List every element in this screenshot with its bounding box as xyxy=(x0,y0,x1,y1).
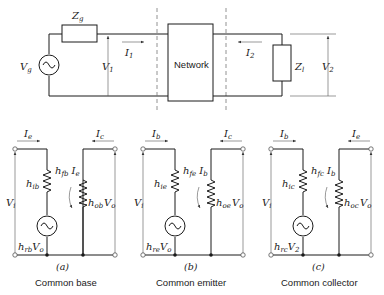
svg-text:Ie: Ie xyxy=(351,128,360,141)
svg-text:hic: hic xyxy=(282,178,295,191)
subcircuit-common-collector: Ib Ie Vi Vo hic hfcIb hoc hrcV2 (c) Comm… xyxy=(262,128,373,288)
caption: Common base xyxy=(35,277,97,288)
input-terminal-bottom xyxy=(269,253,273,257)
subcircuit-common-emitter: Ib Ic Vi Vo hie hfeIb hoe hreVo (b) Comm… xyxy=(134,128,245,288)
load-impedance-box xyxy=(273,45,291,81)
junction-dot xyxy=(209,253,213,257)
svg-text:hib: hib xyxy=(26,178,40,191)
svg-text:Vi: Vi xyxy=(6,197,15,210)
output-current-label: I2 xyxy=(245,47,255,60)
svg-text:Ib: Ib xyxy=(279,128,289,141)
input-terminal-top xyxy=(141,147,145,151)
input-terminal-top xyxy=(269,147,273,151)
output-terminal-bottom xyxy=(241,253,245,257)
output-resistor-icon xyxy=(207,180,215,207)
input-resistor-icon xyxy=(299,170,307,192)
dependent-current-arrow-icon xyxy=(325,187,328,208)
svg-text:hfbIe: hfbIe xyxy=(55,165,80,178)
output-terminal-top xyxy=(369,147,373,151)
svg-text:hoe: hoe xyxy=(216,197,231,210)
svg-text:Vi: Vi xyxy=(262,197,271,210)
dependent-current-arrow-icon xyxy=(197,187,200,208)
ac-source-icon xyxy=(37,216,57,236)
dependent-current-arrow-icon xyxy=(69,187,72,208)
svg-text:hie: hie xyxy=(154,178,167,191)
svg-text:Vo: Vo xyxy=(360,197,371,210)
svg-text:Vo: Vo xyxy=(104,197,115,210)
source-voltage-label: Vg xyxy=(20,61,32,74)
generator-impedance-label: Zg xyxy=(71,10,84,23)
input-terminal-bottom xyxy=(141,253,145,257)
svg-text:Vi: Vi xyxy=(134,197,143,210)
generator-impedance-box xyxy=(62,25,97,42)
junction-dot xyxy=(81,253,85,257)
junction-dot xyxy=(173,253,177,257)
caption-letter: (a) xyxy=(56,261,69,272)
output-terminal-bottom xyxy=(113,253,117,257)
input-current-label: I1 xyxy=(124,47,133,60)
svg-text:hreVo: hreVo xyxy=(146,241,171,254)
svg-text:Ic: Ic xyxy=(223,128,232,141)
junction-dot xyxy=(45,253,49,257)
network-label: Network xyxy=(174,59,209,70)
output-terminal-top xyxy=(241,147,245,151)
caption: Common emitter xyxy=(156,277,226,288)
svg-text:hob: hob xyxy=(88,197,104,210)
ac-source-icon xyxy=(39,55,59,75)
load-impedance-label: Zl xyxy=(294,61,304,74)
svg-text:hfeIb: hfeIb xyxy=(183,165,208,178)
output-loop-wire xyxy=(213,34,282,96)
top-circuit: Zg Vg V1 I1 Network Zl I2 V2 xyxy=(20,8,336,112)
caption-letter: (b) xyxy=(184,261,198,272)
caption-letter: (c) xyxy=(312,261,325,272)
svg-text:Ib: Ib xyxy=(151,128,161,141)
output-resistor-icon xyxy=(335,180,343,207)
svg-text:hrcV2: hrcV2 xyxy=(274,241,300,254)
input-resistor-icon xyxy=(43,170,51,192)
junction-dot xyxy=(337,253,341,257)
ac-source-icon xyxy=(165,216,185,236)
input-terminal-top xyxy=(13,147,17,151)
caption: Common collector xyxy=(281,277,358,288)
input-resistor-icon xyxy=(171,170,179,192)
svg-text:hrbVo: hrbVo xyxy=(18,241,44,254)
ac-source-icon xyxy=(293,216,313,236)
output-terminal-bottom xyxy=(369,253,373,257)
input-terminal-bottom xyxy=(13,253,17,257)
svg-text:Vo: Vo xyxy=(232,197,243,210)
subcircuit-common-base: Ie Ic Vi Vo hib hfbIe hob hrbVo (a) Comm… xyxy=(6,128,117,288)
svg-text:Ie: Ie xyxy=(23,128,32,141)
output-terminal-top xyxy=(113,147,117,151)
svg-text:Ic: Ic xyxy=(95,128,104,141)
svg-text:hfcIb: hfcIb xyxy=(311,165,336,178)
junction-dot xyxy=(301,253,305,257)
svg-text:hoc: hoc xyxy=(344,197,359,210)
two-port-network-diagram: Zg Vg V1 I1 Network Zl I2 V2 xyxy=(0,0,384,295)
